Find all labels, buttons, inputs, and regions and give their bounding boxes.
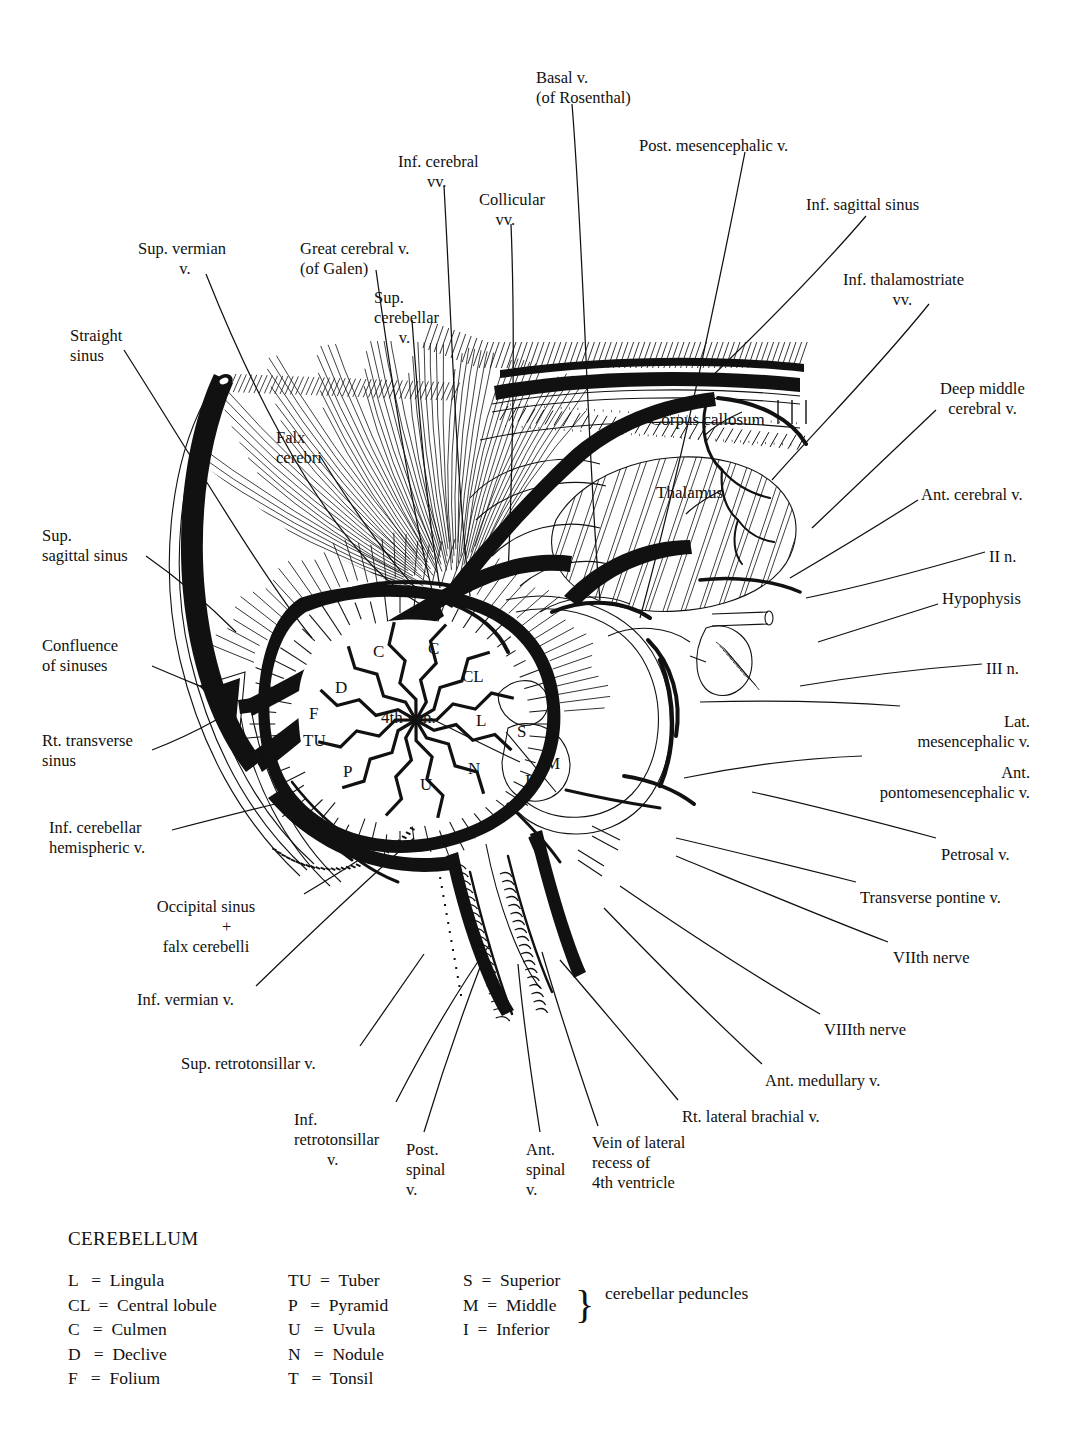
legend-row: T = Tonsil: [288, 1366, 463, 1391]
label-thalamus: Thalamus: [656, 484, 723, 502]
label-fourth-ventricle: 4th ven.: [381, 709, 436, 727]
callout-collicular-vv: Collicular vv.: [479, 190, 545, 230]
legend-row: L = Lingula: [68, 1268, 288, 1293]
callout-ant-spinal-v: Ant. spinal v.: [526, 1140, 565, 1200]
legend-column-lobules-2: TU = Tuber P = Pyramid U = Uvula N = Nod…: [288, 1268, 463, 1391]
callout-inf-retrotonsillar-v: Inf. retrotonsillar v.: [294, 1110, 379, 1170]
legend-row: I = Inferior: [463, 1317, 575, 1342]
callout-transverse-pontine-v: Transverse pontine v.: [860, 888, 1001, 908]
label-central-lobule: CL: [462, 668, 484, 686]
brainstem: [436, 596, 671, 1021]
label-culmen-left: C: [373, 643, 384, 661]
callout-viith-nerve: VIIth nerve: [893, 948, 970, 968]
thalamus: [372, 440, 960, 620]
label-peduncle-superior: S: [517, 723, 526, 741]
callout-sup-sagittal-sinus: Sup. sagittal sinus: [42, 526, 128, 566]
callout-confluence-of-sinuses: Confluence of sinuses: [42, 636, 118, 676]
callout-iii-n: III n.: [986, 659, 1019, 679]
label-nodule: N: [468, 760, 480, 778]
legend-title: CEREBELLUM: [68, 1228, 788, 1250]
legend-row: TU = Tuber: [288, 1268, 463, 1293]
callout-inf-cerebral-vv: Inf. cerebral vv.: [398, 152, 479, 192]
callout-falx-cerebri: Falx cerebri: [276, 428, 322, 468]
inferior-sagittal-sinus: [500, 358, 804, 378]
skull-hatching: [228, 322, 807, 401]
label-lingula: L: [476, 712, 486, 730]
label-pyramid: P: [343, 763, 352, 781]
straight-sinus: [252, 602, 444, 772]
figure-canvas: Basal v. (of Rosenthal) Post. mesencepha…: [0, 0, 1091, 1436]
venous-system: [268, 392, 806, 1014]
callout-deep-middle-cerebral-v: Deep middle cerebral v.: [940, 379, 1025, 419]
callout-inf-cerebellar-hemispheric-v: Inf. cerebellar hemispheric v.: [49, 818, 145, 858]
label-peduncle-middle: M: [545, 755, 560, 773]
callout-sup-vermian-v: Sup. vermian v.: [138, 239, 226, 279]
legend-row: N = Nodule: [288, 1342, 463, 1367]
legend-column-lobules-1: L = Lingula CL = Central lobule C = Culm…: [68, 1268, 288, 1391]
hypophysis-shape: [697, 626, 752, 695]
callout-vein-of-lateral-recess: Vein of lateral recess of 4th ventricle: [592, 1133, 685, 1193]
callout-viiith-nerve: VIIIth nerve: [824, 1020, 906, 1040]
callout-sup-cerebellar-v: Sup. cerebellar v.: [374, 288, 439, 348]
callout-post-mesencephalic-v: Post. mesencephalic v.: [639, 136, 788, 156]
occipital-sinus-falx-cerebelli: [241, 714, 429, 886]
legend-brace-caption: cerebellar peduncles: [605, 1268, 748, 1391]
label-folium: F: [309, 705, 318, 723]
legend-row: P = Pyramid: [288, 1293, 463, 1318]
pericerebellar-hatching: [206, 533, 610, 711]
callout-basal-v: Basal v. (of Rosenthal): [536, 68, 631, 108]
label-corpus-callosum: Corpus callosum: [650, 411, 765, 429]
callout-inf-vermian-v: Inf. vermian v.: [137, 990, 234, 1010]
callout-rt-lateral-brachial-v: Rt. lateral brachial v.: [682, 1107, 820, 1127]
callout-lat-mesencephalic-v: Lat. mesencephalic v.: [700, 712, 1030, 752]
callout-petrosal-v: Petrosal v.: [941, 845, 1010, 865]
callout-sup-retrotonsillar-v: Sup. retrotonsillar v.: [181, 1054, 316, 1074]
label-tuber: TU: [303, 732, 326, 750]
legend: CEREBELLUM L = Lingula CL = Central lobu…: [68, 1228, 788, 1391]
label-peduncle-inferior: I: [525, 772, 531, 790]
legend-row: M = Middle: [463, 1293, 575, 1318]
right-transverse-sinus: [238, 696, 268, 714]
legend-row: CL = Central lobule: [68, 1293, 288, 1318]
callout-hypophysis: Hypophysis: [942, 589, 1021, 609]
callout-occipital-sinus-falx-cerebelli: Occipital sinus + falx cerebelli: [106, 897, 306, 957]
callout-great-cerebral-v: Great cerebral v. (of Galen): [300, 239, 409, 279]
callout-rt-transverse-sinus: Rt. transverse sinus: [42, 731, 133, 771]
legend-row: C = Culmen: [68, 1317, 288, 1342]
callout-ii-n: II n.: [989, 547, 1017, 567]
legend-row: S = Superior: [463, 1268, 575, 1293]
callout-inf-sagittal-sinus: Inf. sagittal sinus: [806, 195, 919, 215]
legend-row: U = Uvula: [288, 1317, 463, 1342]
legend-row: F = Folium: [68, 1366, 288, 1391]
callout-post-spinal-v: Post. spinal v.: [406, 1140, 445, 1200]
legend-column-peduncles: S = Superior M = Middle I = Inferior: [463, 1268, 575, 1391]
tentorium-cerebelli: [246, 555, 572, 716]
label-declive: D: [335, 679, 347, 697]
leader-lines: [124, 104, 985, 1132]
confluence-of-sinuses: [206, 678, 240, 722]
callout-ant-pontomesencephalic-v: Ant. pontomesencephalic v.: [660, 763, 1030, 803]
callout-ant-medullary-v: Ant. medullary v.: [765, 1071, 880, 1091]
callout-straight-sinus: Straight sinus: [70, 326, 122, 366]
label-culmen-right: C: [428, 640, 439, 658]
callout-inf-thalamostriate-vv: Inf. thalamostriate vv.: [843, 270, 964, 310]
legend-brace: }: [575, 1268, 605, 1391]
midbrain-outline: [470, 459, 773, 695]
superior-sagittal-sinus: [181, 374, 262, 772]
legend-row: D = Declive: [68, 1342, 288, 1367]
callout-ant-cerebral-v: Ant. cerebral v.: [921, 485, 1023, 505]
label-uvula: U: [420, 776, 432, 794]
